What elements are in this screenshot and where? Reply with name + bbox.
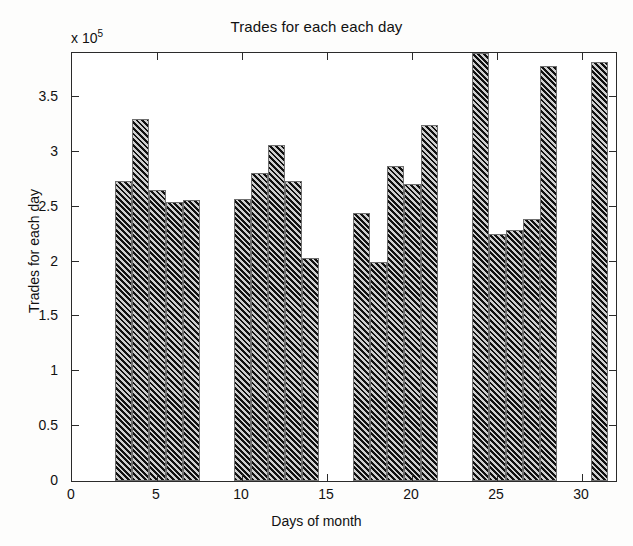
x-axis-tick [582,474,583,481]
y-axis-tick [609,370,616,371]
y-axis-tick [72,261,79,262]
y-axis-tick [609,261,616,262]
bar [506,230,523,481]
x-axis-tick-label: 5 [152,486,160,502]
x-axis-tick-label: 15 [318,486,334,502]
x-axis-tick [327,53,328,60]
bar [302,258,319,481]
bar [540,66,557,481]
x-axis-tick [412,474,413,481]
bar [472,53,489,481]
x-axis-tick-label: 0 [67,486,75,502]
y-axis-tick [72,151,79,152]
y-axis-multiplier-base: x 10 [71,30,97,46]
bar [523,219,540,481]
y-axis-tick [609,151,616,152]
x-axis-tick-label: 10 [233,486,249,502]
x-axis-tick [497,474,498,481]
x-axis-title: Days of month [0,513,633,529]
bar [404,184,421,481]
y-axis-multiplier: x 105 [71,28,103,46]
y-axis-tick-label: 0.5 [39,417,58,433]
x-axis-tick-label: 25 [488,486,504,502]
y-axis-tick-label: 2 [50,253,58,269]
y-axis-tick-label: 0 [50,472,58,488]
x-axis-tick [242,474,243,481]
figure-canvas: Trades for each each day x 105 00.511.52… [0,0,633,546]
bar [489,234,506,481]
y-axis-tick [72,370,79,371]
bar [421,125,438,481]
x-axis-tick [157,53,158,60]
bar [183,200,200,481]
y-axis-tick-label: 3.5 [39,88,58,104]
bar [370,262,387,481]
y-axis-tick [72,425,79,426]
y-axis-tick [72,315,79,316]
plot-area [71,52,617,482]
x-axis-tick-label: 20 [403,486,419,502]
bar [268,145,285,481]
y-axis-tick [609,315,616,316]
y-axis-tick [72,206,79,207]
x-axis-tick-labels: 051015202530 [71,486,617,510]
bar [285,181,302,481]
bar [234,199,251,481]
y-axis-tick-label: 3 [50,143,58,159]
y-axis-multiplier-exponent: 5 [97,28,103,39]
y-axis-tick-label: 1 [50,362,58,378]
bar [591,62,608,481]
x-axis-tick [582,53,583,60]
bar [166,202,183,481]
bar [251,173,268,481]
x-axis-tick [242,53,243,60]
bar [387,166,404,481]
y-axis-tick [609,96,616,97]
y-axis-title: Trades for each day [26,121,42,381]
bar [353,213,370,481]
y-axis-tick [609,425,616,426]
x-axis-tick [497,53,498,60]
bar [132,119,149,481]
x-axis-tick [327,474,328,481]
y-axis-tick [609,206,616,207]
x-axis-tick-label: 30 [573,486,589,502]
bar [149,190,166,481]
x-axis-tick [412,53,413,60]
x-axis-tick [157,474,158,481]
y-axis-tick [72,96,79,97]
bar [115,181,132,481]
